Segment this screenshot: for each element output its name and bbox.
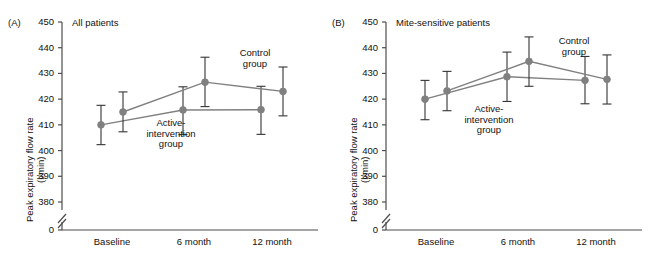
y-tick-label-zero: 0 xyxy=(28,224,54,235)
annotation-active-intervention-group: Active-interventiongroup xyxy=(131,118,211,150)
annotation-line: Control xyxy=(215,48,295,59)
y-tick-label: 440 xyxy=(28,42,54,53)
y-tick-label: 430 xyxy=(28,67,54,78)
y-tick-label: 430 xyxy=(352,67,378,78)
y-axis-label-line1: Peak expiratory flow rate xyxy=(24,117,35,222)
axis-break-mark xyxy=(58,214,66,223)
x-tick-label: Baseline xyxy=(72,236,152,247)
data-point-marker xyxy=(120,109,127,116)
x-tick-label: Baseline xyxy=(396,236,476,247)
data-point-marker xyxy=(258,106,265,113)
x-tick-label: 12 month xyxy=(556,236,636,247)
y-axis-label-line2: (l/min) xyxy=(35,117,46,222)
y-tick-label: 420 xyxy=(28,93,54,104)
data-point-marker xyxy=(504,73,511,80)
y-axis-label: Peak expiratory flow rate(l/min) xyxy=(348,117,370,222)
data-point-marker xyxy=(280,88,287,95)
data-point-marker xyxy=(422,96,429,103)
figure-peak-expiratory-flow-rate: (A)All patients3803904004104204304404500… xyxy=(0,0,648,263)
panel-letter: (A) xyxy=(8,17,21,28)
chart-panel-a: (A)All patients3803904004104204304404500… xyxy=(0,0,324,263)
annotation-line: group xyxy=(449,125,529,136)
x-tick-label: 12 month xyxy=(232,236,312,247)
data-point-marker xyxy=(582,77,589,84)
x-tick-label: 6 month xyxy=(478,236,558,247)
y-tick-label-zero: 0 xyxy=(352,224,378,235)
y-tick-label: 450 xyxy=(352,16,378,27)
annotation-active-intervention-group: Active-interventiongroup xyxy=(449,104,529,136)
data-point-marker xyxy=(98,121,105,128)
annotation-line: Active- xyxy=(131,118,211,129)
annotation-line: Control xyxy=(534,36,614,47)
data-point-marker xyxy=(202,79,209,86)
y-axis-label: Peak expiratory flow rate(l/min) xyxy=(24,117,46,222)
data-point-marker xyxy=(444,88,451,95)
x-tick-label: 6 month xyxy=(154,236,234,247)
y-tick-label: 420 xyxy=(352,93,378,104)
annotation-control-group: Controlgroup xyxy=(215,48,295,69)
annotation-line: Active- xyxy=(449,104,529,115)
data-point-marker xyxy=(526,58,533,65)
panel-title: Mite-sensitive patients xyxy=(396,17,490,28)
panel-letter: (B) xyxy=(332,17,345,28)
chart-panel-b: (B)Mite-sensitive patients38039040041042… xyxy=(324,0,648,263)
annotation-line: group xyxy=(131,139,211,150)
annotation-line: group xyxy=(534,47,614,58)
panel-title: All patients xyxy=(72,17,118,28)
y-tick-label: 440 xyxy=(352,42,378,53)
annotation-control-group: Controlgroup xyxy=(534,36,614,57)
y-axis-label-line1: Peak expiratory flow rate xyxy=(348,117,359,222)
axis-break-mark xyxy=(382,214,390,223)
y-tick-label: 450 xyxy=(28,16,54,27)
y-axis-label-line2: (l/min) xyxy=(359,117,370,222)
data-point-marker xyxy=(604,76,611,83)
data-point-marker xyxy=(180,107,187,114)
annotation-line: group xyxy=(215,59,295,70)
